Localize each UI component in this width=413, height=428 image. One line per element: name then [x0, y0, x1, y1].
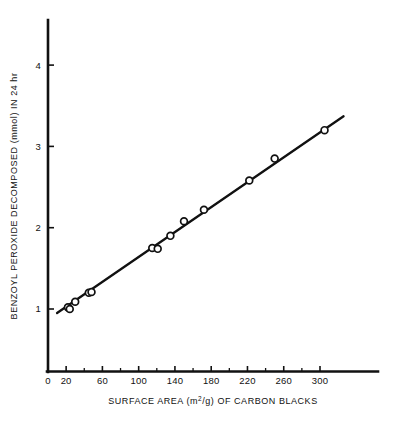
- data-point-marker: [181, 218, 188, 225]
- data-point-marker: [66, 306, 73, 313]
- x-tick-label-60: 60: [97, 375, 108, 386]
- data-point-marker: [72, 298, 79, 305]
- x-tick-label-140: 140: [167, 375, 183, 386]
- data-point-marker: [321, 127, 328, 134]
- chart-figure: 02060100140180220260300 1234 SURFACE ARE…: [0, 0, 413, 428]
- chart-background: [0, 0, 413, 428]
- y-tick-label-4: 4: [36, 60, 41, 71]
- x-axis-title: SURFACE AREA (m2/g) OF CARBON BLACKS: [108, 395, 317, 406]
- data-point-marker: [167, 232, 174, 239]
- y-tick-label-1: 1: [36, 303, 41, 314]
- data-point-marker: [154, 245, 161, 252]
- data-point-marker: [88, 289, 95, 296]
- data-point-marker: [201, 206, 208, 213]
- x-tick-label-20: 20: [61, 375, 72, 386]
- x-tick-label-300: 300: [312, 375, 328, 386]
- x-axis-title-rest: /g) OF CARBON BLACKS: [202, 396, 318, 406]
- x-tick-label-220: 220: [239, 375, 255, 386]
- x-tick-label-0: 0: [45, 375, 50, 386]
- y-tick-label-3: 3: [36, 141, 41, 152]
- data-point-marker: [246, 177, 253, 184]
- x-tick-label-260: 260: [276, 375, 292, 386]
- x-tick-label-180: 180: [203, 375, 219, 386]
- chart-plot-area: 02060100140180220260300 1234 SURFACE ARE…: [0, 0, 413, 428]
- y-axis-title: BENZOYL PEROXIDE DECOMPOSED (mmol) IN 24…: [9, 73, 19, 320]
- x-tick-label-100: 100: [130, 375, 146, 386]
- y-tick-label-2: 2: [36, 222, 41, 233]
- data-point-marker: [271, 155, 278, 162]
